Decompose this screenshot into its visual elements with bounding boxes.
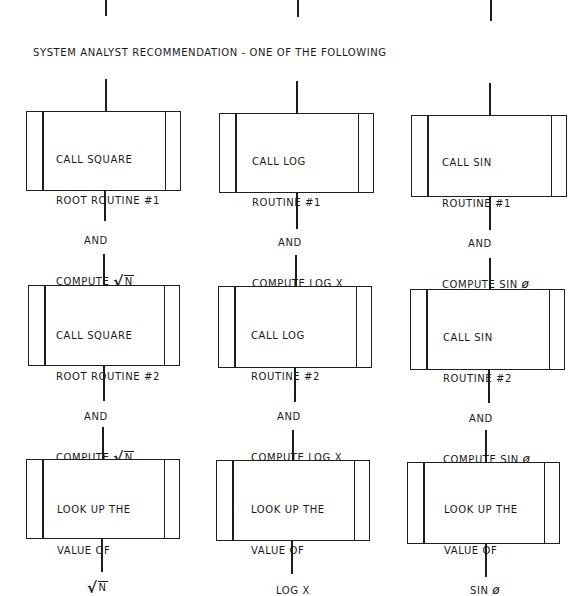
box-divider xyxy=(165,112,167,190)
box-line: CALL SIN xyxy=(442,156,530,170)
box-divider xyxy=(164,460,166,538)
sqrt-symbol-icon: √N xyxy=(87,581,108,596)
connector-top-col1 xyxy=(105,0,107,16)
box-line: AND xyxy=(251,410,342,424)
connector xyxy=(488,370,490,403)
box-divider xyxy=(358,114,360,192)
box-divider xyxy=(44,286,46,365)
connector xyxy=(296,81,298,113)
box-divider xyxy=(235,114,237,192)
connector xyxy=(101,539,103,572)
box-divider xyxy=(427,116,429,196)
connector xyxy=(102,427,104,460)
connector xyxy=(103,254,105,287)
box-line: CALL LOG xyxy=(252,155,343,169)
box-line: AND xyxy=(443,412,531,426)
box-divider xyxy=(234,287,236,367)
box-line: ROOT ROUTINE #1 xyxy=(56,194,160,208)
box-line: AND xyxy=(442,237,530,251)
connector xyxy=(292,430,294,462)
box-divider xyxy=(164,286,166,365)
box-line: VALUE OF xyxy=(251,544,325,558)
box-divider xyxy=(549,290,551,369)
connector-top-col2 xyxy=(297,0,299,17)
box-line: ROUTINE #1 xyxy=(442,197,530,211)
box-line: COMPUTE SIN xyxy=(442,279,518,290)
box-divider xyxy=(426,290,428,369)
box-line: AND xyxy=(56,234,160,248)
section-heading: SYSTEM ANALYST RECOMMENDATION - ONE OF T… xyxy=(33,47,387,58)
box-line: AND xyxy=(56,410,160,424)
connector xyxy=(489,258,491,291)
phi-symbol-icon: ø xyxy=(492,583,500,596)
box-divider xyxy=(354,461,356,540)
box-line: SIN xyxy=(470,585,489,596)
process-box-sin-routine-2: CALL SIN ROUTINE #2 AND COMPUTE SIN ø xyxy=(410,289,565,370)
lookup-box-sqrt: LOOK UP THE VALUE OF √N xyxy=(26,459,180,539)
lookup-box-log: LOOK UP THE VALUE OF LOG X xyxy=(216,460,370,541)
box-line: VALUE OF xyxy=(444,544,518,558)
connector xyxy=(104,191,106,221)
box-divider xyxy=(356,287,358,367)
process-box-log-routine-1: CALL LOG ROUTINE #1 AND COMPUTE LOG X xyxy=(219,113,374,193)
connector-top-col3 xyxy=(490,0,492,21)
connector xyxy=(485,544,487,577)
connector xyxy=(489,83,491,115)
connector xyxy=(105,79,107,111)
box-line: ROUTINE #2 xyxy=(443,372,531,386)
lookup-box-sin: LOOK UP THE VALUE OF SIN ø xyxy=(407,462,560,544)
box-line: LOOK UP THE xyxy=(57,503,131,517)
box-divider xyxy=(551,116,553,196)
connector xyxy=(296,193,298,229)
connector xyxy=(291,541,293,574)
box-divider xyxy=(42,460,44,538)
box-line: ROUTINE #1 xyxy=(252,196,343,210)
box-line: CALL SQUARE xyxy=(56,329,160,343)
box-line: CALL SQUARE xyxy=(56,153,160,167)
connector xyxy=(485,430,487,464)
box-line: ROOT ROUTINE #2 xyxy=(56,370,160,384)
connector xyxy=(103,366,105,401)
box-divider xyxy=(544,463,546,543)
box-divider xyxy=(423,463,425,543)
box-line: CALL SIN xyxy=(443,331,531,345)
box-line: AND xyxy=(252,236,343,250)
box-divider xyxy=(42,112,44,190)
connector xyxy=(294,368,296,402)
box-line: LOG X xyxy=(251,584,325,596)
box-line: CALL LOG xyxy=(251,329,342,343)
process-box-sin-routine-1: CALL SIN ROUTINE #1 AND COMPUTE SIN ø xyxy=(411,115,567,197)
process-box-sqrt-routine-2: CALL SQUARE ROOT ROUTINE #2 AND COMPUTE … xyxy=(28,285,180,366)
process-box-log-routine-2: CALL LOG ROUTINE #2 AND COMPUTE LOG X xyxy=(218,286,372,368)
connector xyxy=(489,197,491,230)
box-line: LOOK UP THE xyxy=(444,503,518,517)
box-line: LOOK UP THE xyxy=(251,503,325,517)
box-divider xyxy=(232,461,234,540)
connector xyxy=(295,255,297,288)
process-box-sqrt-routine-1: CALL SQUARE ROOT ROUTINE #1 AND COMPUTE … xyxy=(26,111,181,191)
box-line: VALUE OF xyxy=(57,544,131,558)
box-line: ROUTINE #2 xyxy=(251,370,342,384)
